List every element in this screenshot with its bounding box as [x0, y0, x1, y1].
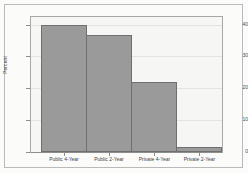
x-axis-label-private-4-year: Private 4-Year	[131, 156, 178, 162]
chart-figure: 40 30 20 10 0 Percent Public 4-Year Publ…	[0, 0, 248, 173]
bar-public-2-year	[86, 35, 132, 152]
y-axis-label-40: 40	[224, 22, 248, 27]
bar-public-4-year	[41, 25, 87, 152]
x-axis-label-private-2-year: Private 2-Year	[176, 156, 223, 162]
bar-private-4-year	[131, 82, 177, 152]
bar-series	[41, 16, 223, 152]
x-axis-label-public-4-year: Public 4-Year	[41, 156, 87, 162]
y-axis-label-0: 0	[224, 149, 248, 154]
y-axis-title: Percent	[2, 45, 8, 85]
x-axis-label-public-2-year: Public 2-Year	[86, 156, 132, 162]
y-axis-label-20: 20	[224, 85, 248, 90]
bar-private-2-year	[176, 147, 222, 152]
y-axis-label-10: 10	[224, 117, 248, 122]
plot-area	[30, 16, 223, 153]
y-axis-label-30: 30	[224, 53, 248, 58]
